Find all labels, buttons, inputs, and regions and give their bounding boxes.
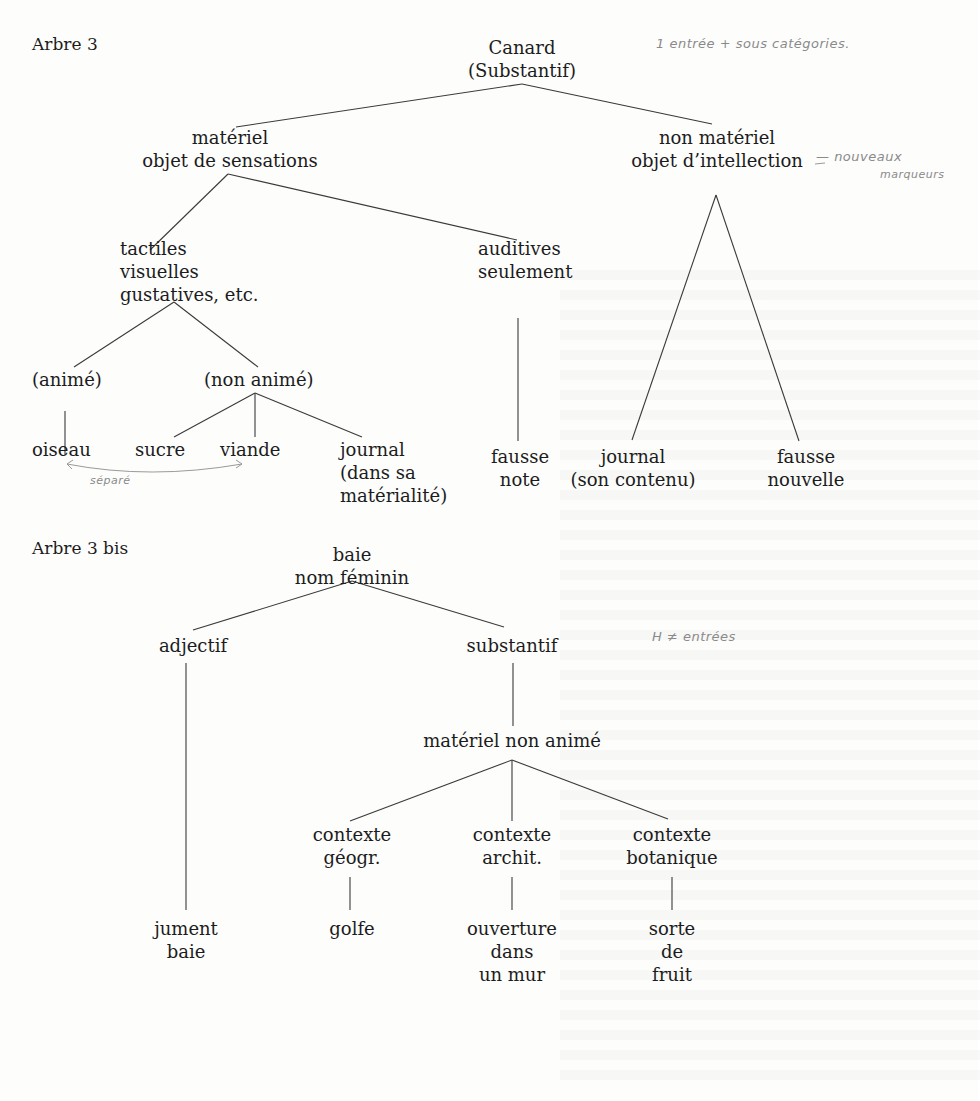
- leaf-journal-line3: matérialité): [340, 484, 447, 507]
- node-non-anime: (non animé): [204, 368, 314, 391]
- leaf-journal-contenu-line1: journal: [570, 445, 695, 468]
- node-contexte-archit-line1: contexte: [473, 823, 551, 846]
- node-tactiles-line3: gustatives, etc.: [120, 283, 259, 306]
- leaf-ouverture: ouverture dans un mur: [467, 917, 557, 986]
- node-materiel-label: matériel: [142, 126, 318, 149]
- annotation-entrees: H ≠ entrées: [652, 629, 736, 644]
- leaf-jument-line2: baie: [154, 940, 218, 963]
- node-materiel-desc: objet de sensations: [142, 149, 318, 172]
- leaf-fruit-line2: de: [649, 940, 696, 963]
- annotation-nouveaux: — nouveaux: [816, 149, 902, 164]
- leaf-journal-materialite: journal (dans sa matérialité): [340, 438, 447, 507]
- leaf-sorte-de-fruit: sorte de fruit: [649, 917, 696, 986]
- node-tactiles-line1: tactiles: [120, 237, 259, 260]
- node-contexte-botanique-line1: contexte: [626, 823, 717, 846]
- node-contexte-botanique: contexte botanique: [626, 823, 717, 869]
- leaf-ouverture-line3: un mur: [467, 963, 557, 986]
- node-contexte-archit-line2: archit.: [473, 846, 551, 869]
- leaf-fausse-nouvelle-line1: fausse: [767, 445, 844, 468]
- node-auditives-line2: seulement: [478, 260, 572, 283]
- edge-nonanime-sucre: [174, 393, 255, 437]
- leaf-jument-baie: jument baie: [154, 917, 218, 963]
- node-tactiles: tactiles visuelles gustatives, etc.: [120, 237, 259, 306]
- node-contexte-geogr: contexte géogr.: [313, 823, 391, 869]
- edge-canard-nonmateriel: [522, 84, 712, 124]
- edge-materiel-geogr: [350, 760, 512, 821]
- node-contexte-archit: contexte archit.: [473, 823, 551, 869]
- node-baie: baie nom féminin: [295, 543, 409, 589]
- leaf-fausse-note-line2: note: [491, 468, 549, 491]
- leaf-journal-line1: journal: [340, 438, 447, 461]
- leaf-sucre: sucre: [135, 438, 185, 461]
- leaf-journal-line2: (dans sa: [340, 461, 447, 484]
- leaf-oiseau: oiseau: [32, 438, 91, 461]
- node-baie-label: baie: [295, 543, 409, 566]
- annotation-separe: séparé: [90, 474, 131, 487]
- edge-canard-materiel: [236, 84, 522, 127]
- leaf-fausse-nouvelle: fausse nouvelle: [767, 445, 844, 491]
- leaf-viande: viande: [220, 438, 280, 461]
- leaf-fruit-line3: fruit: [649, 963, 696, 986]
- tree2-title: Arbre 3 bis: [32, 537, 128, 559]
- node-non-materiel-desc: objet d’intellection: [631, 149, 803, 172]
- node-auditives-line1: auditives: [478, 237, 572, 260]
- edge-gustatives-anime: [74, 302, 174, 367]
- node-canard: Canard (Substantif): [468, 36, 576, 82]
- node-non-materiel-label: non matériel: [631, 126, 803, 149]
- node-contexte-geogr-line2: géogr.: [313, 846, 391, 869]
- node-canard-pos: (Substantif): [468, 59, 576, 82]
- node-materiel: matériel objet de sensations: [142, 126, 318, 172]
- node-substantif: substantif: [467, 634, 558, 657]
- node-auditives: auditives seulement: [478, 237, 572, 283]
- edge-materiel-botanique: [512, 760, 668, 819]
- leaf-journal-contenu: journal (son contenu): [570, 445, 695, 491]
- edge-intellection-faussenouvelle: [716, 195, 799, 441]
- annotation-marqueurs: marqueurs: [880, 168, 944, 181]
- leaf-fausse-nouvelle-line2: nouvelle: [767, 468, 844, 491]
- edge-nonanime-journal: [255, 393, 362, 437]
- edge-intellection-journal: [632, 195, 716, 440]
- node-adjectif: adjectif: [159, 634, 227, 657]
- leaf-journal-contenu-line2: (son contenu): [570, 468, 695, 491]
- leaf-ouverture-line1: ouverture: [467, 917, 557, 940]
- node-canard-label: Canard: [468, 36, 576, 59]
- node-contexte-geogr-line1: contexte: [313, 823, 391, 846]
- tree1-title: Arbre 3: [32, 33, 98, 55]
- node-tactiles-line2: visuelles: [120, 260, 259, 283]
- leaf-fruit-line1: sorte: [649, 917, 696, 940]
- node-non-materiel: non matériel objet d’intellection: [631, 126, 803, 172]
- annotation-entree-sous-categories: 1 entrée + sous catégories.: [656, 36, 850, 51]
- leaf-jument-line1: jument: [154, 917, 218, 940]
- node-anime: (animé): [32, 368, 102, 391]
- edge-sensations-auditives: [228, 174, 517, 240]
- node-contexte-botanique-line2: botanique: [626, 846, 717, 869]
- leaf-fausse-note: fausse note: [491, 445, 549, 491]
- edge-gustatives-nonanime: [174, 302, 258, 367]
- leaf-ouverture-line2: dans: [467, 940, 557, 963]
- leaf-fausse-note-line1: fausse: [491, 445, 549, 468]
- node-baie-pos: nom féminin: [295, 566, 409, 589]
- node-materiel-non-anime: matériel non animé: [423, 729, 601, 752]
- leaf-golfe: golfe: [329, 917, 374, 940]
